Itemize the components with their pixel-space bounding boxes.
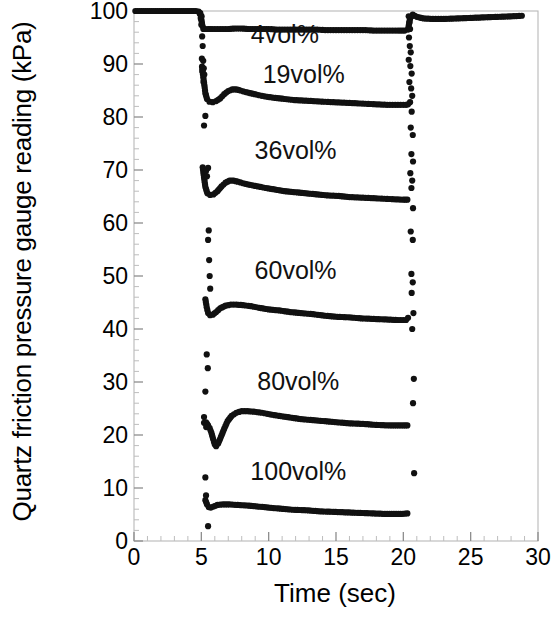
y-tick-label: 30: [82, 371, 128, 394]
scatter-point: [410, 205, 416, 211]
scatter-point: [407, 26, 413, 32]
scatter-point: [198, 22, 204, 28]
scatter-point: [200, 79, 206, 85]
data-point: [404, 510, 410, 516]
x-axis-tick-labels: 051015202530: [0, 546, 549, 576]
scatter-point: [408, 49, 414, 55]
scatter-point: [204, 351, 210, 357]
scatter-point: [407, 63, 413, 69]
scatter-point: [410, 158, 416, 164]
y-axis-tick-labels: 0102030405060708090100: [78, 0, 128, 560]
series-label-4vol%: 4vol%: [251, 20, 319, 48]
series-60vol%: [202, 296, 411, 323]
scatter-point: [406, 13, 412, 19]
scatter-point: [406, 34, 412, 40]
data-point: [405, 315, 411, 321]
scatter-point: [203, 492, 209, 498]
scatter-point: [410, 400, 416, 406]
scatter-point: [205, 365, 211, 371]
transition-scatter-right: [406, 13, 418, 476]
y-tick-label: 90: [82, 53, 128, 76]
x-tick-label: 15: [314, 546, 358, 569]
y-tick-label: 20: [82, 424, 128, 447]
scatter-point: [406, 57, 412, 63]
scatter-point: [408, 151, 414, 157]
x-tick-label: 30: [516, 546, 555, 569]
scatter-point: [202, 388, 208, 394]
scatter-point: [409, 70, 415, 76]
series-label-80vol%: 80vol%: [257, 367, 339, 395]
data-point: [404, 422, 410, 428]
scatter-point: [411, 376, 417, 382]
scatter-point: [199, 33, 205, 39]
y-tick-label: 100: [82, 0, 128, 23]
series-80vol%: [201, 408, 411, 449]
x-tick-label: 5: [179, 546, 223, 569]
series-4vol%: [132, 8, 525, 34]
scatter-point: [199, 13, 205, 19]
scatter-point: [200, 58, 206, 64]
scatter-point: [408, 185, 414, 191]
scatter-point: [201, 122, 207, 128]
scatter-point: [407, 43, 413, 49]
scatter-point: [406, 20, 412, 26]
x-tick-label: 20: [381, 546, 425, 569]
x-tick-label: 0: [112, 546, 156, 569]
scatter-point: [207, 286, 213, 292]
series-label-60vol%: 60vol%: [255, 256, 337, 284]
scatter-point: [206, 227, 212, 233]
scatter-point: [409, 109, 415, 115]
scatter-point: [203, 424, 209, 430]
scatter-point: [202, 113, 208, 119]
scatter-point: [202, 474, 208, 480]
scatter-point: [205, 523, 211, 529]
scatter-point: [408, 271, 414, 277]
scatter-point: [205, 237, 211, 243]
scatter-point: [207, 273, 213, 279]
x-tick-label: 10: [247, 546, 291, 569]
scatter-point: [200, 43, 206, 49]
scatter-point: [201, 72, 207, 78]
scatter-point: [409, 290, 415, 296]
data-point: [404, 197, 410, 203]
series-label-100vol%: 100vol%: [250, 457, 346, 485]
scatter-point: [410, 279, 416, 285]
scatter-point: [409, 326, 415, 332]
series-36vol%: [200, 164, 411, 203]
scatter-point: [409, 93, 415, 99]
x-tick-label: 25: [449, 546, 493, 569]
y-tick-label: 50: [82, 265, 128, 288]
scatter-point: [407, 99, 413, 105]
series-label-19vol%: 19vol%: [263, 60, 345, 88]
y-tick-label: 40: [82, 318, 128, 341]
scatter-point: [408, 125, 414, 131]
scatter-point: [201, 414, 207, 420]
scatter-point: [409, 178, 415, 184]
scatter-point: [410, 237, 416, 243]
scatter-point: [408, 85, 414, 91]
scatter-point: [411, 470, 417, 476]
scatter-point: [206, 257, 212, 263]
y-axis-title: Quartz friction pressure gauge reading (…: [7, 0, 38, 552]
x-axis-title: Time (sec): [130, 578, 540, 609]
scatter-point: [410, 132, 416, 138]
data-point: [519, 13, 525, 19]
scatter-point: [203, 168, 209, 174]
y-tick-label: 70: [82, 159, 128, 182]
scatter-point: [408, 228, 414, 234]
series-label-36vol%: 36vol%: [255, 136, 337, 164]
y-tick-label: 80: [82, 106, 128, 129]
y-tick-label: 60: [82, 212, 128, 235]
scatter-point: [204, 173, 210, 179]
scatter-point: [410, 310, 416, 316]
scatter-point: [407, 170, 413, 176]
y-tick-label: 10: [82, 477, 128, 500]
series-100vol%: [202, 497, 410, 517]
scatter-point: [406, 79, 412, 85]
